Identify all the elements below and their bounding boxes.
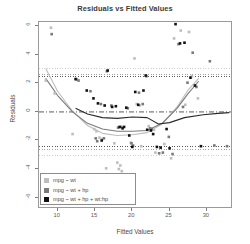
- x-tick-label: 25: [161, 212, 177, 218]
- residuals-vs-fitted-chart: Residuals vs Fitted Values 1015202530642…: [0, 0, 250, 244]
- x-tick-mark: [131, 208, 132, 211]
- legend-item: mpg ~ wt + hp: [44, 186, 132, 195]
- y-tick-label: 0: [25, 103, 31, 117]
- y-tick-label: -6: [25, 189, 31, 203]
- x-tick-label: 10: [49, 212, 65, 218]
- x-axis-label: Fitted Values: [38, 228, 232, 235]
- y-tick-mark: [35, 25, 38, 26]
- chart-legend: mpg ~ wt mpg ~ wt + hp mpg ~ wt + hp + w…: [40, 173, 136, 205]
- x-tick-mark: [57, 208, 58, 211]
- legend-item: mpg ~ wt: [44, 176, 132, 185]
- y-axis-label: Residuals: [9, 74, 16, 144]
- legend-item-label: mpg ~ wt: [53, 176, 76, 185]
- legend-swatch-icon: [44, 178, 49, 183]
- x-tick-mark: [206, 208, 207, 211]
- y-tick-mark: [35, 139, 38, 140]
- y-tick-mark: [35, 111, 38, 112]
- y-tick-mark: [35, 82, 38, 83]
- legend-swatch-icon: [44, 188, 49, 193]
- x-tick-mark: [169, 208, 170, 211]
- y-tick-label: -4: [25, 160, 31, 174]
- chart-title: Residuals vs Fitted Values: [0, 4, 250, 13]
- y-tick-label: 2: [25, 74, 31, 88]
- legend-item: mpg ~ wt + hp + wt:hp: [44, 195, 132, 204]
- legend-item-label: mpg ~ wt + hp: [53, 186, 88, 195]
- y-tick-mark: [35, 168, 38, 169]
- x-tick-label: 20: [123, 212, 139, 218]
- x-tick-label: 15: [86, 212, 102, 218]
- y-tick-label: -2: [25, 131, 31, 145]
- y-tick-label: 6: [25, 17, 31, 31]
- x-tick-label: 30: [198, 212, 214, 218]
- y-tick-mark: [35, 197, 38, 198]
- legend-swatch-icon: [44, 197, 49, 202]
- y-tick-mark: [35, 54, 38, 55]
- legend-item-label: mpg ~ wt + hp + wt:hp: [53, 195, 108, 204]
- y-tick-label: 4: [25, 46, 31, 60]
- x-tick-mark: [94, 208, 95, 211]
